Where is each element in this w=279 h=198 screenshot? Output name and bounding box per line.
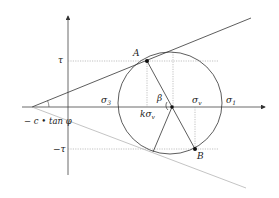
k-sigma-v-label: kσv [140,110,155,120]
tau-label: τ [58,56,63,65]
sigma3-label: σ3 [101,96,111,106]
beta-label: β [157,94,162,103]
chord-a-b [147,61,195,149]
beta-arc [166,102,168,110]
neg-tau-label: −τ [53,145,66,154]
chord-center-lower [153,107,172,152]
center-dot [170,105,174,109]
mohr-diagram [0,0,279,198]
point-b-label: B [197,152,204,161]
phi-angle-arc [48,101,50,108]
sigma1-label: σ1 [226,96,236,106]
sigma-v-label: σv [192,96,202,106]
upper-envelope [32,18,251,107]
point-a-dot [145,59,149,63]
point-a-label: A [133,49,140,58]
intercept-label: − c • tan φ [24,117,72,126]
